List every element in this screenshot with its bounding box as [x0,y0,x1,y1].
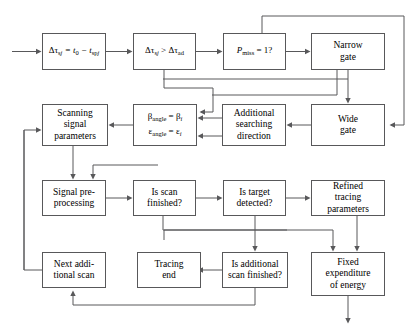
node-refined-label: Refined tracing parameters [325,181,371,216]
node-wide-gate[interactable]: Wide gate [311,104,385,146]
sub-i-1: i [181,115,183,122]
node-scanning-label: Scanning signal parameters [52,108,98,143]
sub-sj2: sj [154,49,158,56]
node-angles-label: βangle = βi εangle = εi [146,110,185,139]
node-wide-gate-label: Wide gate [336,114,360,137]
node-tracing-end-label: Tracing end [152,259,185,282]
node-is-add-fin-label: Is additional scan finished? [226,259,284,282]
node-scanning-signal-parameters[interactable]: Scanning signal parameters [42,104,108,146]
wire-isscan-to-tracingend [163,216,287,230]
node-is-scan-finished[interactable]: Is scan finished? [133,180,196,216]
sub-angle-1: angle [152,115,166,122]
sub-miss: miss [242,49,254,56]
node-pmiss[interactable]: Pmiss = 1? [223,33,286,70]
node-addsearch-label: Additional searching direction [232,108,277,143]
node-dtau-compare-label: Δτsj > Δτad [143,44,186,59]
node-dtau-equation-label: Δτsj = t0 − tspj [47,44,102,59]
node-narrow-gate[interactable]: Narrow gate [311,33,385,70]
node-additional-searching-direction[interactable]: Additional searching direction [222,104,286,146]
node-dtau-compare[interactable]: Δτsj > Δτad [133,33,196,70]
node-is-additional-scan-finished[interactable]: Is additional scan finished? [222,252,288,288]
sub-spj: spj [92,49,100,56]
wire-isaddfin-to-nextadd [73,288,255,305]
flowchart-canvas: Δτsj = t0 − tspj Δτsj > Δτad Pmiss = 1? … [0,0,416,333]
node-tracing-end[interactable]: Tracing end [137,252,201,288]
sub-angle-2: angle [152,130,166,137]
node-narrow-gate-label: Narrow gate [331,40,364,63]
node-is-target-label: Is target detected? [235,187,275,210]
arrowhead-entry [36,49,42,54]
node-fixed-expenditure-of-energy[interactable]: Fixed expenditure of energy [311,252,385,296]
node-signal-pre-label: Signal pre- processing [51,187,97,210]
node-signal-preprocessing[interactable]: Signal pre- processing [42,180,106,216]
node-is-target-detected[interactable]: Is target detected? [223,180,286,216]
sub-ad: ad [178,49,184,56]
node-is-scan-fin-label: Is scan finished? [145,187,184,210]
sub-i-2: i [180,130,182,137]
node-dtau-equation[interactable]: Δτsj = t0 − tspj [42,33,106,70]
node-fixed-exp-label: Fixed expenditure of energy [324,257,373,292]
wire-narrow-branch-to-addsearch-left [212,70,337,95]
node-angles[interactable]: βangle = βi εangle = εi [133,104,197,146]
wire-nextadd-to-scanning [24,130,42,270]
node-next-add-label: Next addi- tional scan [52,259,97,282]
node-next-additional-scan[interactable]: Next addi- tional scan [42,252,106,288]
node-refined-tracing-parameters[interactable]: Refined tracing parameters [311,180,385,216]
node-pmiss-label: Pmiss = 1? [235,44,275,59]
